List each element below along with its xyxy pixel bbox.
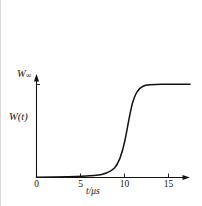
x-axis-caption: t/μs (86, 187, 100, 197)
curve-w-of-t (37, 84, 191, 177)
x-tick-label-5: 5 (74, 180, 88, 190)
figure-sigmoid-growth-curve: W∞ W(t) t/μs 0 5 10 15 (0, 0, 202, 206)
x-tick-label-0: 0 (30, 180, 44, 190)
y-asymptote-subscript: ∞ (26, 71, 32, 80)
y-asymptote-base: W (17, 68, 26, 79)
x-tick-label-10: 10 (118, 180, 132, 190)
y-axis (34, 74, 40, 178)
y-axis-function-label: W(t) (9, 112, 28, 123)
x-tick-label-15: 15 (162, 180, 176, 190)
x-caption-unit: μs (91, 186, 99, 196)
y-axis-asymptote-label: W∞ (17, 69, 31, 80)
plot-area (0, 0, 202, 206)
